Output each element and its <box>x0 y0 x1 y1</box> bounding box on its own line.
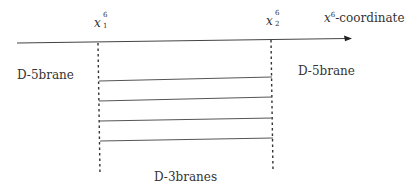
right-d5-brane-label: D-5brane <box>298 64 355 78</box>
axis-label-var: x <box>324 11 331 25</box>
diagram-lines <box>0 0 413 195</box>
x6-1-var: x <box>94 16 101 30</box>
x6-2-var: x <box>266 14 273 28</box>
x6-1-sup: 6 <box>103 11 107 19</box>
left-d5-brane-label: D-5brane <box>17 68 74 82</box>
d3-brane-line-3 <box>100 118 273 121</box>
x6-1-sub: 1 <box>103 22 107 30</box>
axis-label: x6-coordinate <box>324 11 405 25</box>
x6-1-label: x 6 1 <box>94 16 101 30</box>
brane-diagram: x 6 1 x 6 2 x6-coordinate D-5brane D-5br… <box>0 0 413 195</box>
left-d5-brane-line <box>98 43 100 175</box>
axis-arrowhead-icon <box>344 36 352 42</box>
d3-brane-line-1 <box>99 77 272 81</box>
d3-brane-line-4 <box>100 138 273 141</box>
right-d5-brane-line <box>271 40 273 171</box>
axis-label-suffix: -coordinate <box>335 11 404 25</box>
d3-brane-line-2 <box>99 97 272 101</box>
x6-2-sup: 6 <box>275 9 279 17</box>
x6-2-sub: 2 <box>275 20 279 28</box>
d3-branes-label: D-3branes <box>154 170 217 184</box>
x6-2-label: x 6 2 <box>266 14 273 28</box>
x6-axis-line <box>17 39 346 44</box>
